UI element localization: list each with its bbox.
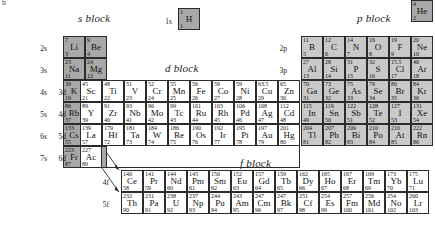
element-cell-Hg[interactable]: 201Hg80	[278, 124, 300, 146]
element-cell-F[interactable]: 19F9	[389, 36, 411, 58]
element-cell-Kr[interactable]: 84Kr36	[411, 80, 433, 102]
element-cell-Al[interactable]: 27Al13	[301, 58, 323, 80]
element-cell-Pu[interactable]: 244Pu94	[209, 192, 231, 214]
element-cell-Es[interactable]: 254Es99	[319, 192, 341, 214]
element-cell-Tl[interactable]: 204Tl81	[301, 124, 323, 146]
element-cell-Li[interactable]: 7Li3	[63, 36, 85, 58]
element-number: 27	[214, 95, 220, 102]
element-cell-Te[interactable]: 128Te52	[367, 102, 389, 124]
element-cell-Bi[interactable]: 209Bi83	[345, 124, 367, 146]
element-cell-Pm[interactable]: 145Pm61	[187, 170, 209, 192]
element-cell-C[interactable]: 12C6	[323, 36, 345, 58]
element-cell-Ar[interactable]: 40Ar18	[411, 58, 433, 80]
element-cell-He[interactable]: 4 He 2	[411, 0, 433, 22]
element-cell-Br[interactable]: 80Br35	[389, 80, 411, 102]
element-cell-As[interactable]: 75As33	[345, 80, 367, 102]
shell-label-6d: 6d	[52, 154, 66, 163]
element-cell-Zr[interactable]: 91Zr40	[102, 102, 124, 124]
element-cell-At[interactable]: 210At85	[389, 124, 411, 146]
element-cell-Ni[interactable]: 59Ni28	[234, 80, 256, 102]
element-cell-Ta[interactable]: 181Ta73	[124, 124, 146, 146]
element-cell-Se[interactable]: 79Se34	[367, 80, 389, 102]
element-cell-Ho[interactable]: 165Ho67	[319, 170, 341, 192]
element-cell-S[interactable]: 32S16	[367, 58, 389, 80]
element-cell-O[interactable]: 16O8	[367, 36, 389, 58]
element-cell-Pa[interactable]: 231Pa91	[143, 192, 165, 214]
element-cell-Ce[interactable]: 140Ce58	[121, 170, 143, 192]
element-cell-Po[interactable]: 210Po84	[367, 124, 389, 146]
element-cell-Tb[interactable]: 159Tb65	[275, 170, 297, 192]
element-cell-Gd[interactable]: 157Gd64	[253, 170, 275, 192]
element-cell-Hf[interactable]: 179Hf72	[102, 124, 124, 146]
element-cell-In[interactable]: 115In49	[301, 102, 323, 124]
element-cell-W[interactable]: 184W74	[146, 124, 168, 146]
element-number: 61	[189, 185, 195, 192]
element-cell-Am[interactable]: 243Am95	[231, 192, 253, 214]
element-cell-Ag[interactable]: 108Ag47	[256, 102, 278, 124]
element-cell-V[interactable]: 51V23	[124, 80, 146, 102]
element-cell-H[interactable]: 1 H 1	[178, 8, 200, 30]
element-cell-Tm[interactable]: 169Tm69	[363, 170, 385, 192]
element-cell-Yb[interactable]: 173Yb70	[385, 170, 407, 192]
element-cell-Ne[interactable]: 20Ne10	[411, 36, 433, 58]
element-cell-B[interactable]: 11B5	[301, 36, 323, 58]
element-cell-Cl[interactable]: 15.5Cl17	[389, 58, 411, 80]
element-cell-I[interactable]: 127I53	[389, 102, 411, 124]
element-cell-Mg[interactable]: 24Mg12	[85, 58, 107, 80]
element-cell-Fm[interactable]: 257Fm100	[341, 192, 363, 214]
element-cell-Be[interactable]: 9Be4	[85, 36, 107, 58]
element-cell-Er[interactable]: 167Er68	[341, 170, 363, 192]
element-cell-Ge[interactable]: 73Ge32	[323, 80, 345, 102]
element-cell-Ru[interactable]: 101Ru44	[190, 102, 212, 124]
element-cell-Lr[interactable]: 260Lr103	[407, 192, 429, 214]
element-cell-Cr[interactable]: 52Cr24	[146, 80, 168, 102]
element-cell-Sb[interactable]: 122Sb51	[345, 102, 367, 124]
element-cell-Sc[interactable]: 45Sc21	[80, 80, 102, 102]
element-cell-Si[interactable]: 28Si14	[323, 58, 345, 80]
element-cell-Zn[interactable]: 65Zn30	[278, 80, 300, 102]
element-cell-P[interactable]: 31P15	[345, 58, 367, 80]
element-cell-Ac[interactable]: 227Ac89	[80, 146, 102, 168]
element-cell-Bk[interactable]: 247Bk97	[275, 192, 297, 214]
element-cell-Lu[interactable]: 175Lu71	[407, 170, 429, 192]
element-cell-N[interactable]: 14N7	[345, 36, 367, 58]
element-cell-Co[interactable]: 59Co27	[212, 80, 234, 102]
element-cell-Pb[interactable]: 207Pb82	[323, 124, 345, 146]
element-cell-Cu[interactable]: 63.5Cu29	[256, 80, 278, 102]
element-cell-Cf[interactable]: 251Cf98	[297, 192, 319, 214]
element-cell-Md[interactable]: 256Md101	[363, 192, 385, 214]
element-cell-Fe[interactable]: 56Fe26	[190, 80, 212, 102]
element-cell-Nb[interactable]: 93Nb41	[124, 102, 146, 124]
element-cell-Pt[interactable]: 195Pt78	[234, 124, 256, 146]
element-cell-Rh[interactable]: 103Rh45	[212, 102, 234, 124]
element-cell-Re[interactable]: 186Re75	[168, 124, 190, 146]
element-cell-Dy[interactable]: 162Dy66	[297, 170, 319, 192]
element-cell-Ti[interactable]: 48Ti22	[102, 80, 124, 102]
element-cell-Y[interactable]: 89Y39	[80, 102, 102, 124]
element-cell-Pd[interactable]: 106Pd46	[234, 102, 256, 124]
element-cell-Os[interactable]: 190Os76	[190, 124, 212, 146]
element-cell-Cm[interactable]: 247Cm96	[253, 192, 275, 214]
element-cell-No[interactable]: 254No102	[385, 192, 407, 214]
element-cell-Ir[interactable]: 192Ir77	[212, 124, 234, 146]
element-cell-Mn[interactable]: 55Mn25	[168, 80, 190, 102]
element-cell-U[interactable]: 238U92	[165, 192, 187, 214]
element-cell-Sm[interactable]: 150Sm62	[209, 170, 231, 192]
element-cell-Np[interactable]: 237Np93	[187, 192, 209, 214]
element-cell-Ga[interactable]: 70Ga31	[301, 80, 323, 102]
element-cell-Cd[interactable]: 112Cd48	[278, 102, 300, 124]
element-cell-Mo[interactable]: 96Mo42	[146, 102, 168, 124]
element-cell-Tc[interactable]: 99Tc43	[168, 102, 190, 124]
element-cell-La[interactable]: 139La57	[80, 124, 102, 146]
element-cell-Au[interactable]: 197Au79	[256, 124, 278, 146]
element-number: 97	[277, 207, 283, 214]
element-cell-Th[interactable]: 232Th90	[121, 192, 143, 214]
element-cell-Pr[interactable]: 141Pr59	[143, 170, 165, 192]
element-cell-Xe[interactable]: 131Xe54	[411, 102, 433, 124]
element-cell-Rn[interactable]: 222Rn86	[411, 124, 433, 146]
element-cell-Eu[interactable]: 152Eu63	[231, 170, 253, 192]
element-cell-Nd[interactable]: 144Nd60	[165, 170, 187, 192]
element-cell-Na[interactable]: 23Na11	[63, 58, 85, 80]
element-number: 98	[299, 207, 305, 214]
element-cell-Sn[interactable]: 119Sn50	[323, 102, 345, 124]
